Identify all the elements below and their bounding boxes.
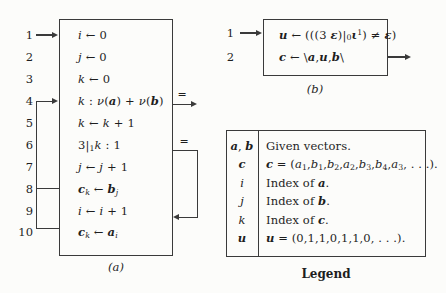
statement-a7: j ← j + 1: [78, 158, 128, 176]
equal-exit-line: [173, 104, 192, 105]
step-number-b2: 2: [212, 49, 234, 65]
legend-symbol-k: k: [226, 212, 258, 229]
statement-a5: k ← k + 1: [78, 114, 135, 132]
statement-a1: i ← 0: [78, 26, 107, 44]
equal-exit-arrowhead-icon: [191, 101, 197, 107]
figure-canvas: 1 2 3 4 5 6 7 8 9 10 i ← 0 j ← 0 k ← 0 k…: [0, 0, 446, 293]
return-arrowhead-step4-icon: [52, 98, 58, 104]
step-number-a2: 2: [11, 49, 33, 65]
step-number-a4: 4: [11, 93, 33, 109]
statement-a3: k ← 0: [78, 70, 110, 88]
legend-divider: [258, 130, 259, 257]
loop-vertical-line: [197, 150, 198, 218]
loop-return-line: [179, 217, 198, 218]
legend-symbol-u: u: [226, 230, 258, 247]
entry-arrowhead-a-icon: [52, 32, 58, 38]
equal-loop-label: =: [177, 135, 191, 148]
exit-line-b: [388, 56, 406, 57]
statement-b1: u ← (((3 ε)|0ι1) ≠ ε): [279, 24, 396, 42]
legend-description-c: c = (a1,b1,b2,a2,b3,b4,a3, . . .).: [266, 156, 438, 173]
loop-exit-line: [173, 150, 198, 151]
return-branch-from-step10: [36, 228, 59, 229]
legend-description-i: Index of a.: [266, 175, 329, 192]
entry-line-b: [240, 32, 257, 33]
statement-a6: 3|1k : 1: [78, 136, 121, 154]
statement-a8: ck ← bj: [78, 180, 118, 198]
step-number-a1: 1: [11, 27, 33, 43]
return-branch-to-step4: [36, 101, 53, 102]
caption-a: (a): [59, 259, 173, 275]
legend-symbol-c: c: [226, 156, 258, 173]
caption-b: (b): [255, 81, 375, 97]
legend-symbol-j: j: [226, 193, 258, 210]
statement-a9: i ← i + 1: [78, 202, 128, 220]
return-branch-vertical: [36, 101, 37, 229]
entry-line-a: [36, 34, 53, 35]
legend-description-u: u = (0,1,1,0,1,1,0, . . .).: [266, 230, 405, 247]
entry-arrowhead-b-icon: [256, 30, 262, 36]
legend-description-j: Index of b.: [266, 193, 330, 210]
return-branch-from-step8: [36, 188, 59, 189]
step-number-a7: 7: [11, 159, 33, 175]
legend-description-k: Index of c.: [266, 212, 329, 229]
statement-b2: c ← \a,u,b\: [279, 48, 344, 66]
step-number-a10: 10: [11, 224, 33, 240]
step-number-a8: 8: [11, 181, 33, 197]
legend-description-ab: Given vectors.: [266, 138, 351, 155]
statement-a2: j ← 0: [78, 48, 107, 66]
loop-return-arrowhead-icon: [173, 214, 179, 220]
exit-arrowhead-b-icon: [405, 54, 411, 60]
step-number-a3: 3: [11, 71, 33, 87]
statement-a10: ck ← ai: [78, 223, 118, 241]
equal-exit-label: =: [175, 88, 189, 101]
legend-symbol-i: i: [226, 175, 258, 192]
step-number-a5: 5: [11, 115, 33, 131]
statement-a4: k : ν(a) + ν(b): [78, 92, 164, 110]
legend-symbol-ab: a, b: [226, 138, 258, 155]
legend-caption: Legend: [226, 266, 426, 282]
step-number-b1: 1: [212, 25, 234, 41]
step-number-a9: 9: [11, 203, 33, 219]
step-number-a6: 6: [11, 137, 33, 153]
